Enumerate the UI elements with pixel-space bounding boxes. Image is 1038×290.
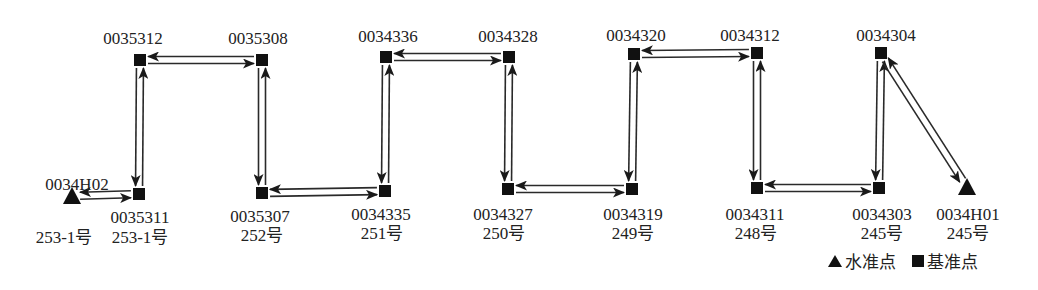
forward-arrow [642, 57, 749, 58]
edge-0035312-0035308 [148, 57, 254, 64]
base-point-square-icon [503, 51, 515, 63]
label-0034328: 0034328 [478, 28, 538, 46]
label-0034319: 0034319 [603, 206, 663, 224]
edge-0034303-0034304 [876, 61, 885, 180]
label-sub-0035307: 252号 [241, 227, 284, 245]
forward-arrow [505, 65, 506, 181]
benchmark-triangle-icon [958, 178, 976, 195]
label-sub-0034327: 250号 [483, 225, 526, 243]
base-point-square-icon [256, 54, 268, 66]
base-point-square-icon [873, 182, 885, 194]
label-0034H01: 0034H01 [936, 206, 999, 224]
base-point-square-icon [875, 47, 887, 59]
label-0034303: 0034303 [852, 206, 912, 224]
route-nodes [63, 47, 976, 204]
edge-0035311-0035312 [136, 68, 144, 186]
edge-0034335-0034336 [382, 65, 390, 183]
return-arrow [888, 58, 965, 179]
label-sub-0034335: 251号 [361, 225, 404, 243]
base-point-square-icon [380, 51, 392, 63]
label-sub-0034H02: 253-1号 [36, 229, 93, 247]
label-0035311: 0035311 [111, 209, 170, 227]
label-0034311: 0034311 [726, 206, 785, 224]
forward-arrow [636, 62, 638, 181]
edge-0034304-0034H01 [882, 58, 965, 182]
route-edges [80, 50, 966, 200]
return-arrow [512, 65, 513, 181]
label-0034335: 0034335 [351, 206, 411, 224]
forward-arrow [389, 65, 390, 183]
base-point-square-icon [134, 54, 146, 66]
base-point-square-icon [133, 188, 145, 200]
label-0035312: 0035312 [103, 30, 163, 48]
legend-label-base-point: 基准点 [927, 248, 978, 273]
edge-0034336-0034328 [394, 54, 501, 61]
base-point-square-icon [626, 183, 638, 195]
label-0034327: 0034327 [473, 206, 533, 224]
base-point-square-icon [379, 185, 391, 197]
forward-arrow [80, 198, 131, 200]
legend-item-base-point: 基准点 [912, 248, 978, 273]
triangle-icon [828, 255, 842, 267]
label-sub-0034H01: 245号 [947, 225, 990, 243]
label-0035307: 0035307 [230, 208, 290, 226]
edge-0034327-0034319 [516, 186, 624, 193]
return-arrow [642, 50, 749, 51]
base-point-square-icon [256, 187, 268, 199]
edge-0034319-0034320 [629, 62, 638, 181]
edge-0034312-0034311 [754, 61, 761, 180]
return-arrow [136, 68, 137, 186]
label-0034336: 0034336 [358, 28, 418, 46]
label-0035308: 0035308 [228, 30, 288, 48]
return-arrow [876, 61, 878, 180]
base-point-square-icon [751, 47, 763, 59]
return-arrow [382, 65, 383, 183]
label-sub-0034303: 245号 [861, 225, 904, 243]
base-point-square-icon [502, 183, 514, 195]
label-0034H02: 0034H02 [45, 176, 108, 194]
base-point-square-icon [751, 182, 763, 194]
label-sub-0035311: 253-1号 [112, 229, 169, 247]
return-arrow [629, 62, 631, 181]
label-0034304: 0034304 [856, 27, 916, 45]
edge-0034311-0034303 [765, 185, 871, 192]
edge-0035308-0035307 [259, 68, 266, 185]
forward-arrow [143, 68, 144, 186]
legend-label-benchmark: 水准点 [845, 248, 896, 273]
base-point-square-icon [628, 48, 640, 60]
forward-arrow [883, 61, 885, 180]
forward-arrow [882, 62, 959, 183]
return-arrow [270, 188, 377, 190]
label-sub-0034311: 248号 [735, 225, 778, 243]
square-icon [912, 255, 924, 267]
edge-0034320-0034312 [642, 50, 749, 58]
edge-0034328-0034327 [505, 65, 513, 181]
legend-item-benchmark: 水准点 [828, 248, 896, 273]
legend: 水准点 基准点 [828, 248, 988, 273]
label-0034312: 0034312 [720, 27, 780, 45]
edge-0035307-0034335 [270, 188, 377, 197]
label-sub-0034319: 249号 [612, 225, 655, 243]
forward-arrow [270, 195, 377, 197]
label-0034320: 0034320 [606, 27, 666, 45]
